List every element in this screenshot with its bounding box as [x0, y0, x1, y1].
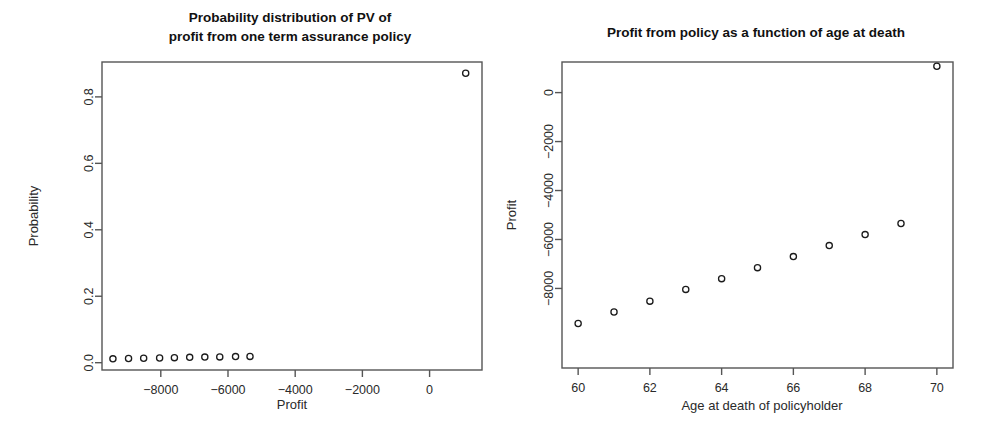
right-plot-title: Profit from policy as a function of age …: [607, 25, 905, 40]
left-plot-title-line2: profit from one term assurance policy: [169, 29, 412, 44]
right-x-axis-ticks: 606264666870: [571, 368, 944, 395]
left-x-tick-label: −8000: [143, 383, 178, 397]
right-y-tick-label: −8000: [542, 271, 556, 306]
right-data-point: [790, 254, 796, 260]
right-x-tick-label: 66: [786, 381, 800, 395]
left-data-point: [125, 355, 131, 361]
right-x-tick-label: 62: [643, 381, 657, 395]
right-x-tick-label: 64: [715, 381, 729, 395]
right-y-axis-ticks: 0−2000−4000−6000−8000: [542, 89, 562, 306]
right-data-point: [934, 63, 940, 69]
chart-panel-profit-vs-age: Profit from policy as a function of age …: [494, 0, 988, 435]
right-y-tick-label: 0: [542, 89, 556, 96]
left-data-points: [110, 70, 469, 362]
left-x-tick-label: −4000: [278, 383, 313, 397]
left-data-point: [463, 70, 469, 76]
figure-canvas: Probability distribution of PV of profit…: [0, 0, 988, 435]
right-x-tick-label: 68: [858, 381, 872, 395]
left-y-tick-label: 0.2: [82, 288, 96, 305]
right-y-tick-label: −6000: [542, 222, 556, 257]
right-y-tick-label: −4000: [542, 173, 556, 208]
left-x-tick-label: −6000: [210, 383, 245, 397]
left-data-point: [157, 355, 163, 361]
right-data-point: [862, 231, 868, 237]
right-x-tick-label: 70: [930, 381, 944, 395]
right-data-points: [575, 63, 940, 326]
right-data-point: [719, 276, 725, 282]
left-data-point: [141, 355, 147, 361]
left-data-point: [202, 354, 208, 360]
left-y-axis-ticks: 0.00.20.40.60.8: [82, 88, 102, 371]
right-data-point: [647, 298, 653, 304]
left-data-point: [247, 353, 253, 359]
right-data-point: [754, 265, 760, 271]
left-y-tick-label: 0.6: [82, 155, 96, 172]
left-plot-title-line1: Probability distribution of PV of: [189, 10, 392, 25]
chart-panel-probability-distribution: Probability distribution of PV of profit…: [0, 0, 494, 435]
left-x-tick-label: 0: [426, 383, 433, 397]
left-x-tick-label: −2000: [345, 383, 380, 397]
right-data-point: [575, 320, 581, 326]
left-data-point: [217, 354, 223, 360]
right-x-tick-label: 60: [571, 381, 585, 395]
left-data-point: [187, 354, 193, 360]
left-y-axis-label: Probability: [26, 185, 41, 246]
probability-distribution-plot: Probability distribution of PV of profit…: [0, 0, 494, 435]
left-y-tick-label: 0.0: [82, 354, 96, 371]
left-x-axis-label: Profit: [277, 397, 308, 412]
right-y-axis-label: Profit: [504, 199, 519, 230]
profit-vs-age-plot: Profit from policy as a function of age …: [494, 0, 988, 435]
right-data-point: [826, 243, 832, 249]
left-data-point: [171, 355, 177, 361]
left-y-tick-label: 0.8: [82, 88, 96, 105]
left-x-axis-ticks: −8000−6000−4000−20000: [143, 370, 433, 397]
left-data-point: [232, 354, 238, 360]
right-data-point: [611, 309, 617, 315]
left-plot-frame: [102, 62, 482, 370]
right-data-point: [898, 220, 904, 226]
left-y-tick-label: 0.4: [82, 221, 96, 238]
right-plot-frame: [562, 62, 953, 368]
right-data-point: [683, 286, 689, 292]
right-x-axis-label: Age at death of policyholder: [681, 398, 843, 413]
left-data-point: [110, 356, 116, 362]
right-y-tick-label: −2000: [542, 124, 556, 159]
